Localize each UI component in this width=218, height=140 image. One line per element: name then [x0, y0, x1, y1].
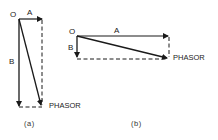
caption-b: (b) [131, 120, 142, 128]
diagram-a [19, 19, 42, 107]
origin-label-a: O [10, 11, 16, 19]
phasor-arrow [77, 36, 167, 58]
phasor-arrow [19, 19, 41, 105]
vector-a-label-a: A [27, 9, 32, 17]
phasor-label-b: PHASOR [173, 54, 205, 62]
caption-a: (a) [24, 120, 35, 128]
diagram-b [77, 36, 169, 59]
phasor-label-a: PHASOR [49, 102, 81, 110]
vector-b-label-b: B [68, 44, 73, 52]
origin-label-b: O [69, 28, 75, 36]
vector-a-label-b: A [114, 27, 119, 35]
vector-b-label-a: B [9, 58, 14, 66]
